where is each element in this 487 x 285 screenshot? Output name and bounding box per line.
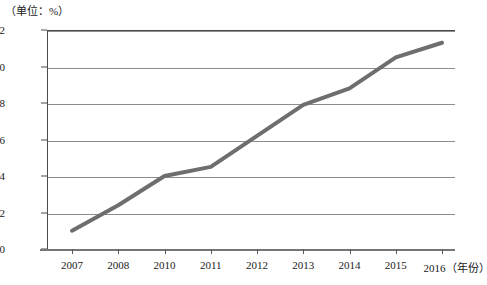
y-axis-tick-mark (41, 176, 47, 177)
x-axis-tick-mark (396, 249, 397, 254)
y-axis-tick-label: 0.02 (0, 207, 5, 219)
x-axis-tick-label: 2012 (246, 259, 268, 271)
y-axis-tick-mark (41, 139, 47, 140)
plot-area (47, 30, 455, 249)
x-axis-line (40, 249, 455, 251)
y-axis-tick-mark (41, 30, 47, 31)
gridline (48, 31, 455, 32)
x-axis-tick-mark (303, 249, 304, 254)
x-axis-tick-label: 2014 (339, 259, 361, 271)
gridline (48, 214, 455, 215)
x-axis-tick-mark (165, 249, 166, 254)
y-axis-tick-label: 0.04 (0, 170, 5, 182)
x-axis-tick-mark (118, 249, 119, 254)
y-axis-tick-mark (41, 212, 47, 213)
gridline (48, 141, 455, 142)
y-axis-tick-mark (41, 103, 47, 104)
x-axis-tick-mark (72, 249, 73, 254)
x-axis-tick-label: 2010 (154, 259, 176, 271)
x-axis-tick-label: 2011 (200, 259, 222, 271)
x-axis-tick-label: 2015 (385, 259, 407, 271)
gridline (48, 68, 455, 69)
y-axis-tick-label: 0.06 (0, 134, 5, 146)
gridline (48, 177, 455, 178)
y-axis-tick-mark (41, 66, 47, 67)
x-axis-tick-mark (211, 249, 212, 254)
x-axis-tick-label: 2008 (107, 259, 129, 271)
y-axis-tick-label: 0 (0, 243, 5, 255)
x-axis-tick-label: 2016（年份） (424, 259, 487, 275)
unit-note-label: （单位：%） (5, 2, 69, 18)
y-axis-tick-label: 0.10 (0, 61, 5, 73)
y-axis-tick-label: 0.08 (0, 97, 5, 109)
x-axis-tick-label: 2013 (292, 259, 314, 271)
x-axis-tick-label: 2007 (61, 259, 83, 271)
x-axis-tick-mark (442, 249, 443, 254)
x-axis-tick-mark (350, 249, 351, 254)
y-axis-tick-label: 0.12 (0, 24, 5, 36)
gridline (48, 104, 455, 105)
x-axis-tick-mark (257, 249, 258, 254)
